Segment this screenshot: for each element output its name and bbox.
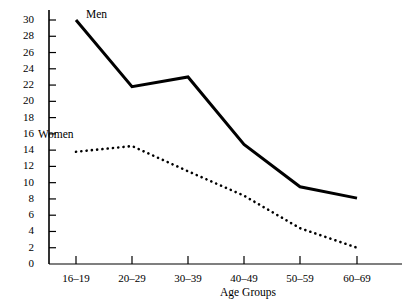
series-line-men [76, 20, 357, 198]
y-axis-tick-label: 6 [8, 209, 34, 220]
x-axis-tick-label: 50–59 [270, 273, 330, 284]
x-axis-tick-label: 20–29 [102, 273, 162, 284]
x-axis-tick-label: 16–19 [46, 273, 106, 284]
y-axis-tick-label: 16 [8, 128, 34, 139]
y-axis-tick-label: 28 [8, 30, 34, 41]
y-axis-tick-label: 8 [8, 193, 34, 204]
chart-axes [49, 10, 402, 264]
y-axis-tick-label: 24 [8, 63, 34, 74]
x-axis-tick-label: 40–49 [214, 273, 274, 284]
y-axis-tick-label: 18 [8, 112, 34, 123]
line-chart: 024681012141618202224262830 16–1920–2930… [0, 0, 409, 303]
y-axis-tick-label: 14 [8, 144, 34, 155]
y-axis-tick-label: 26 [8, 47, 34, 58]
series-label-women: Women [38, 128, 73, 140]
y-axis-tick-label: 20 [8, 95, 34, 106]
x-axis-tick-label: 60–69 [327, 273, 387, 284]
series-line-women [76, 146, 357, 248]
y-axis-tick-label: 12 [8, 160, 34, 171]
y-axis-tick-label: 0 [8, 258, 34, 269]
y-axis-tick-label: 10 [8, 177, 34, 188]
chart-series [76, 20, 357, 248]
chart-canvas [0, 0, 409, 303]
y-axis-tick-label: 30 [8, 14, 34, 25]
x-axis-title: Age Groups [178, 286, 318, 298]
series-label-men: Men [86, 8, 107, 20]
y-axis-tick-label: 4 [8, 225, 34, 236]
y-axis-tick-label: 22 [8, 79, 34, 90]
x-axis-tick-label: 30–39 [158, 273, 218, 284]
y-axis-tick-label: 2 [8, 242, 34, 253]
chart-tick-marks [49, 20, 357, 264]
